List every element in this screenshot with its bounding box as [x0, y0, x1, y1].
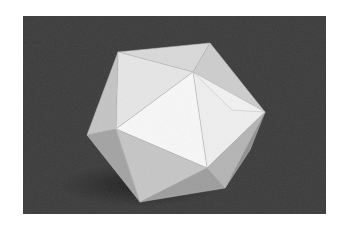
- photo-frame: [23, 16, 326, 214]
- icosahedron-image: [23, 16, 326, 214]
- figure-caption: [0, 226, 347, 235]
